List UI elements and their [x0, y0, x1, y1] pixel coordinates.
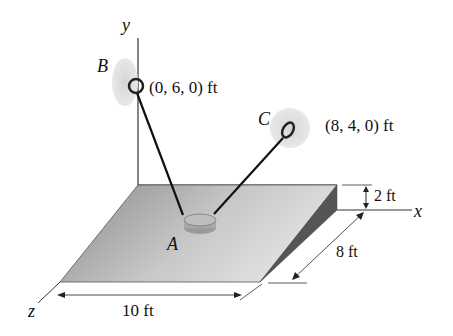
point-C-label: C [258, 110, 270, 128]
x-axis-label: x [414, 202, 422, 220]
height-dimension: 2 ft [374, 188, 396, 204]
width-dimension: 10 ft [122, 302, 154, 319]
z-axis-label: z [28, 302, 35, 320]
depth-dimension: 8 ft [336, 244, 358, 260]
diagram-canvas: y x z B (0, 6, 0) ft C (8, 4, 0) ft A 2 … [0, 0, 453, 336]
point-B-label: B [97, 57, 108, 75]
point-A-label: A [167, 235, 178, 253]
point-C-coords: (8, 4, 0) ft [325, 117, 393, 134]
y-axis-label: y [122, 16, 130, 34]
z-axis-line [38, 282, 60, 303]
point-B-coords: (0, 6, 0) ft [149, 79, 217, 96]
diagram-graphics [0, 0, 453, 336]
block-A [184, 214, 216, 226]
support-B-halo [112, 58, 138, 106]
support-C-halo [270, 108, 310, 148]
